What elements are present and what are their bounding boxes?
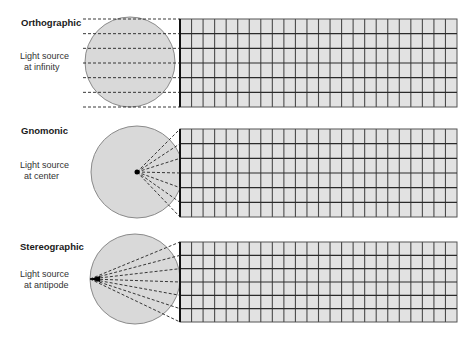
orthographic-light-line1: Light source xyxy=(20,51,69,62)
stereographic-light-line2: at antipode xyxy=(20,280,69,291)
light-source-center-icon xyxy=(135,170,140,175)
stereographic-title: Stereographic xyxy=(20,241,84,252)
stereographic-light-source-label: Light source at antipode xyxy=(20,269,69,291)
orthographic-light-line2: at infinity xyxy=(20,62,69,73)
gnomonic-light-source-label: Light source at center xyxy=(20,160,69,182)
orthographic-title: Orthographic xyxy=(21,17,81,28)
orthographic-globe xyxy=(85,17,175,107)
gnomonic-title: Gnomonic xyxy=(21,125,68,136)
stereographic-light-line1: Light source xyxy=(20,269,69,280)
gnomonic-light-line1: Light source xyxy=(20,160,69,171)
orthographic-light-source-label: Light source at infinity xyxy=(20,51,69,73)
gnomonic-light-line2: at center xyxy=(20,171,69,182)
projection-diagram xyxy=(0,0,472,337)
